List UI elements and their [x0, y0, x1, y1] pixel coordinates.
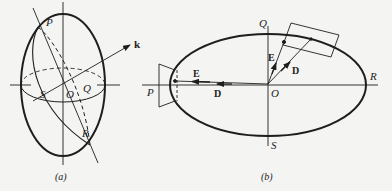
label-E-left: E [193, 68, 200, 79]
label-S-a: S [40, 88, 46, 100]
label-D-top: D [292, 65, 299, 76]
label-Q-b: Q [259, 17, 267, 29]
label-P-b: P [146, 86, 154, 98]
caption-b: (b) [261, 171, 273, 183]
panel-a [10, 2, 130, 165]
label-P-a: P [45, 16, 53, 28]
left-point [174, 80, 177, 83]
label-Q-a: Q [83, 82, 91, 94]
label-D-left: D [214, 88, 221, 99]
D-arrow-top [281, 62, 290, 71]
caption-a: (a) [55, 171, 67, 183]
index-ellipsoid-figure: P S O Q R k (a) Q R P O S [0, 0, 392, 191]
top-point-D [310, 38, 312, 40]
panel-b [142, 23, 378, 146]
k-vector [33, 45, 130, 101]
panel-b-labels: Q R P O S E D E D (b) [146, 17, 377, 183]
label-O-b: O [271, 87, 279, 99]
E-arrow-left [192, 82, 210, 83]
panel-a-labels: P S O Q R k (a) [40, 16, 141, 183]
label-S-b: S [271, 139, 277, 151]
left-wavefront-trapezoid [159, 64, 175, 107]
E-arrow-top [272, 63, 276, 74]
label-E-top: E [268, 52, 275, 63]
label-k: k [134, 38, 141, 50]
top-point-E [282, 40, 285, 43]
label-R-b: R [369, 70, 377, 82]
label-O-a: O [66, 88, 74, 100]
label-R-a: R [81, 127, 89, 139]
